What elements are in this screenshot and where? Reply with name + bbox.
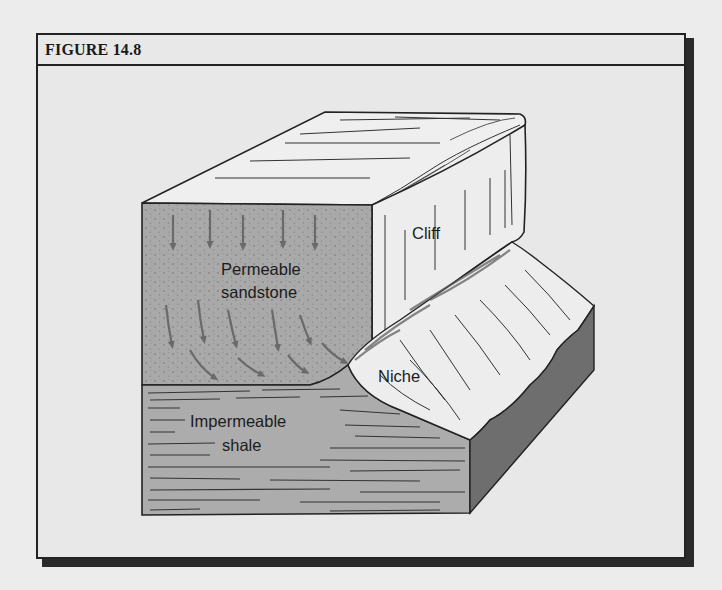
shale-label-line1: Impermeable (190, 410, 286, 432)
block-diagram (0, 0, 722, 590)
sandstone-label-line1: Permeable (221, 258, 301, 280)
sandstone-label-line2: sandstone (221, 281, 297, 303)
niche-label: Niche (378, 365, 420, 387)
shale-label-line2: shale (222, 434, 261, 456)
cliff-label: Cliff (412, 222, 440, 244)
